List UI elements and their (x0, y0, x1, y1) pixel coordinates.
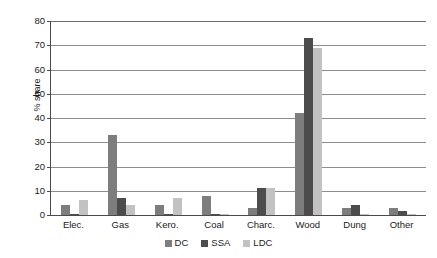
y-tick-mark (47, 215, 51, 216)
bar-ldc-0 (79, 200, 88, 215)
x-axis-label-1: Gas (97, 219, 144, 230)
bar-ldc-4 (266, 188, 275, 215)
bar-dc-4 (248, 208, 257, 215)
bar-dc-1 (108, 135, 117, 215)
bar-chart: % share 01020304050607080 Elec.GasKero.C… (0, 0, 437, 258)
y-tick-label: 80 (1, 16, 45, 26)
x-axis-label-4: Charc. (238, 219, 285, 230)
y-tick-label: 20 (1, 162, 45, 172)
bar-ldc-7 (407, 214, 416, 215)
bar-group (98, 21, 145, 215)
bar-ldc-1 (126, 205, 135, 215)
x-axis-label-3: Coal (191, 219, 238, 230)
y-tick-label: 60 (1, 65, 45, 75)
plot-area: 01020304050607080 (50, 21, 426, 216)
bars-layer (51, 21, 426, 215)
legend-swatch-icon (201, 240, 208, 247)
y-tick-label: 30 (1, 137, 45, 147)
legend-item-ldc: LDC (243, 238, 272, 248)
bar-group (145, 21, 192, 215)
legend-label: LDC (253, 238, 272, 248)
bar-ssa-2 (164, 214, 173, 215)
bar-dc-2 (155, 205, 164, 215)
y-tick-label: 40 (1, 113, 45, 123)
x-axis-label-5: Wood (284, 219, 331, 230)
bar-ldc-3 (220, 214, 229, 215)
bar-dc-3 (202, 196, 211, 215)
x-axis-labels: Elec.GasKero.CoalCharc.WoodDungOther (50, 219, 425, 230)
y-tick-label: 70 (1, 40, 45, 50)
bar-group (51, 21, 98, 215)
bar-group (192, 21, 239, 215)
bar-group (285, 21, 332, 215)
bar-dc-0 (61, 205, 70, 215)
legend-swatch-icon (243, 240, 250, 247)
bar-ssa-1 (117, 198, 126, 215)
bar-ssa-3 (211, 214, 220, 215)
x-axis-label-2: Kero. (144, 219, 191, 230)
bar-dc-6 (342, 208, 351, 215)
chart-legend: DCSSALDC (0, 238, 437, 248)
bar-ssa-4 (257, 188, 266, 215)
legend-swatch-icon (165, 240, 172, 247)
legend-label: SSA (211, 238, 230, 248)
bar-dc-5 (295, 113, 304, 215)
bar-ldc-5 (313, 48, 322, 215)
bar-ldc-6 (360, 214, 369, 215)
bar-ldc-2 (173, 198, 182, 215)
x-axis-label-7: Other (378, 219, 425, 230)
bar-ssa-7 (398, 211, 407, 215)
bar-group (332, 21, 379, 215)
bar-dc-7 (389, 208, 398, 215)
legend-label: DC (175, 238, 189, 248)
bar-ssa-0 (70, 214, 79, 215)
legend-item-dc: DC (165, 238, 189, 248)
y-tick-label: 10 (1, 186, 45, 196)
bar-ssa-6 (351, 205, 360, 215)
y-tick-label: 0 (1, 210, 45, 220)
bar-group (239, 21, 286, 215)
legend-item-ssa: SSA (201, 238, 230, 248)
y-tick-label: 50 (1, 89, 45, 99)
bar-group (379, 21, 426, 215)
x-axis-label-6: Dung (331, 219, 378, 230)
x-axis-label-0: Elec. (50, 219, 97, 230)
bar-ssa-5 (304, 38, 313, 215)
